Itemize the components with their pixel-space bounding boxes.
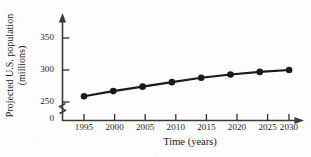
data-point-2005 bbox=[139, 83, 146, 90]
data-point-2015 bbox=[198, 74, 205, 81]
x-tick-label-2005: 2005 bbox=[128, 123, 162, 132]
data-point-2030 bbox=[286, 67, 293, 74]
y-axis-ticks bbox=[63, 38, 70, 102]
x-axis-ticks bbox=[84, 114, 289, 121]
chart-figure: 350 300 250 0 1995 2000 2005 2010 2015 2… bbox=[0, 0, 311, 157]
axis-break-zigzag-icon bbox=[60, 104, 66, 114]
data-point-2020 bbox=[227, 71, 234, 78]
y-tick-label-300: 300 bbox=[28, 65, 54, 74]
x-tick-label-1995: 1995 bbox=[67, 123, 101, 132]
data-point-2010 bbox=[169, 79, 176, 86]
x-tick-label-2010: 2010 bbox=[159, 123, 193, 132]
arrow-up-icon bbox=[59, 13, 66, 23]
x-tick-label-2015: 2015 bbox=[189, 123, 223, 132]
y-tick-label-0: 0 bbox=[28, 114, 54, 123]
chart-plot-area bbox=[0, 0, 311, 157]
y-axis-title: Projected U.S. population (millions) bbox=[4, 4, 27, 128]
data-point-2025 bbox=[257, 69, 264, 76]
y-tick-label-350: 350 bbox=[28, 33, 54, 42]
x-axis-title: Time (years) bbox=[84, 136, 296, 147]
data-point-1995 bbox=[81, 93, 88, 100]
x-tick-label-2020: 2020 bbox=[220, 123, 254, 132]
y-tick-label-250: 250 bbox=[28, 97, 54, 106]
x-tick-label-2000: 2000 bbox=[98, 123, 132, 132]
data-point-2000 bbox=[110, 88, 117, 95]
data-point-markers bbox=[81, 67, 293, 100]
y-axis-title-line-2: (millions) bbox=[15, 4, 27, 128]
x-tick-label-2030: 2030 bbox=[272, 123, 306, 132]
y-axis-title-line-1: Projected U.S. population bbox=[4, 4, 16, 128]
